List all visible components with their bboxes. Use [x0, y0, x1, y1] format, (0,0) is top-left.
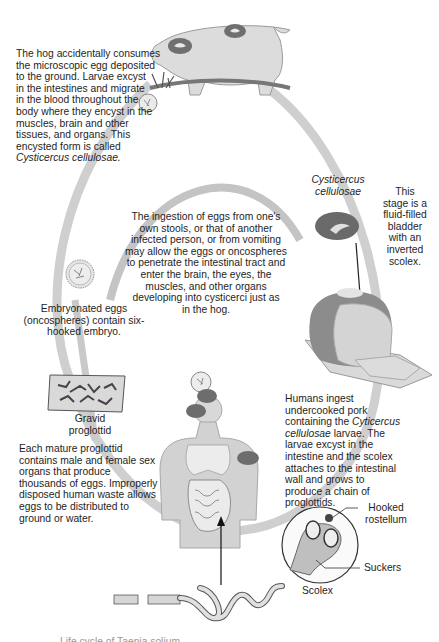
text-line: the microscopic egg deposited [16, 60, 196, 72]
cysticercus-description: This stage is a fluid-filled bladder wit… [373, 186, 437, 267]
text-line: muscles, brain and other [16, 118, 196, 130]
cellulosae-term: cellulosae [285, 428, 331, 439]
human-stage-description: Humans ingest undercooked pork containin… [285, 393, 435, 509]
text-line: contains male and female sex [19, 455, 179, 467]
text-line: (oncospheres) contain six- [14, 315, 154, 327]
text-line: hooked embryo. [14, 326, 154, 338]
text-line: inverted [373, 244, 437, 256]
text-line: in the blood throughout the [16, 94, 196, 106]
text-line: tissues, and organs. This [16, 129, 196, 141]
text-line: own stools, or that of another [100, 223, 312, 235]
text-line: in the intestines and migrate [16, 83, 196, 95]
text-line: eggs to be distributed to [19, 501, 179, 513]
text-line: scolex. [373, 256, 437, 268]
text-line: body where they encyst in the [16, 106, 196, 118]
text-fragment: larvae. The [331, 428, 385, 439]
gravid-proglottid-label: Gravid proglottid [55, 413, 125, 436]
text-line: may allow the eggs or oncospheres [100, 246, 312, 258]
hooked-rostellum-label: Hooked rostellum [356, 502, 416, 525]
text-line: muscles, and other organs [100, 281, 312, 293]
text-line: stage is a [373, 198, 437, 210]
text-line: containing the Cyticercus [285, 416, 435, 428]
text-line: to the ground. Larvae excyst [16, 71, 196, 83]
text-line: This [373, 186, 437, 198]
text-line: wall and grows to [285, 474, 435, 486]
text-line: with an [373, 232, 437, 244]
autoinfection-description: The ingestion of eggs from one's own sto… [100, 211, 312, 315]
text-line: Humans ingest [285, 393, 435, 405]
eggs-description: Embryonated eggs (oncospheres) contain s… [14, 303, 154, 338]
text-line: Cysticercus [308, 174, 368, 186]
text-line: developing into cysticerci just as [100, 292, 312, 304]
text-line: encysted form is called [16, 141, 196, 153]
text-line: Gravid [55, 413, 125, 425]
egg-icon-human [191, 372, 211, 392]
text-line: larvae excyst in the [285, 439, 435, 451]
text-line: intestine and the scolex [285, 451, 435, 463]
oncosphere-egg-icon [66, 260, 94, 288]
cysticercus-term: Cysticercus cellulosae. [16, 152, 196, 164]
cysticercus-cyst-icon [315, 212, 359, 240]
hog-stage-description: The hog accidentally consumes the micros… [16, 48, 196, 164]
gravid-proglottid-icon [48, 375, 125, 412]
text-line: Each mature proglottid [19, 443, 179, 455]
text-line: The ingestion of eggs from one's [100, 211, 312, 223]
pork-meat-icon [305, 288, 432, 388]
text-line: fluid-filled [373, 209, 437, 221]
text-line: proglottid [55, 425, 125, 437]
text-line: undercooked pork [285, 405, 435, 417]
text-line: The hog accidentally consumes [16, 48, 196, 60]
text-line: produce a chain of [285, 486, 435, 498]
suckers-label: Suckers [364, 562, 401, 574]
text-line: enter the brain, the eyes, the [100, 269, 312, 281]
text-line: Hooked [356, 502, 416, 514]
text-line: rostellum [356, 514, 416, 526]
cysticercus-name-label: Cysticercus cellulosae [308, 174, 368, 197]
proglottid-description: Each mature proglottid contains male and… [19, 443, 179, 524]
cyticercus-term: Cyticercus [352, 416, 400, 427]
text-line: attaches to the intestinal [285, 463, 435, 475]
text-line: cellulosae [308, 186, 368, 198]
text-line: thousands of eggs. Improperly [19, 478, 179, 490]
tapeworm-strobila-icon [114, 586, 282, 618]
text-line: Embryonated eggs [14, 303, 154, 315]
text-line: cellulosae larvae. The [285, 428, 435, 440]
text-line: infected person, or from vomiting [100, 234, 312, 246]
scolex-magnified-icon [282, 507, 358, 583]
text-line: organs that produce [19, 466, 179, 478]
text-line: to penetrate the intestinal tract and [100, 257, 312, 269]
text-line: bladder [373, 221, 437, 233]
scolex-label: Scolex [302, 585, 333, 597]
text-line: disposed human waste allows [19, 489, 179, 501]
text-line: ground or water. [19, 513, 179, 525]
figure-caption-truncated: Life cycle of Taenia solium [60, 636, 260, 642]
text-fragment: containing the [285, 416, 352, 427]
